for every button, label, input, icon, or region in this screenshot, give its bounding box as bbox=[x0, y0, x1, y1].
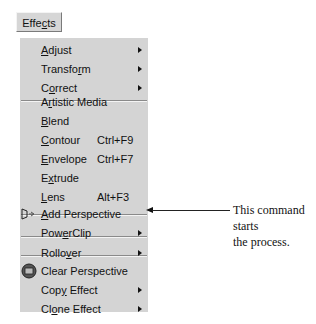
menu-item-label: PowerClip bbox=[41, 227, 91, 239]
menu-item-clone-effect[interactable]: Clone Effect bbox=[20, 300, 148, 319]
clear-perspective-icon bbox=[21, 263, 37, 279]
submenu-arrow-icon bbox=[138, 66, 142, 72]
menu-item-label: Contour bbox=[41, 134, 80, 146]
perspective-icon bbox=[21, 206, 37, 222]
menu-item-label: Clone Effect bbox=[41, 303, 101, 315]
submenu-arrow-icon bbox=[138, 287, 142, 293]
submenu-arrow-icon bbox=[138, 306, 142, 312]
menu-item-envelope[interactable]: EnvelopeCtrl+F7 bbox=[20, 150, 148, 169]
menu-item-shortcut: Ctrl+F9 bbox=[97, 134, 133, 146]
menu-item-rollover[interactable]: Rollover bbox=[20, 244, 148, 263]
effects-menu-button[interactable]: Effects bbox=[16, 12, 62, 32]
menu-item-label: Lens bbox=[41, 191, 65, 203]
menu-item-shortcut: Ctrl+F7 bbox=[97, 153, 133, 165]
menu-item-shortcut: Alt+F3 bbox=[97, 191, 129, 203]
menu-item-label: Transform bbox=[41, 63, 91, 75]
pointer-line bbox=[152, 210, 230, 211]
menu-item-label: Clear Perspective bbox=[41, 265, 128, 277]
submenu-arrow-icon bbox=[138, 230, 142, 236]
menu-item-label: Extrude bbox=[41, 172, 79, 184]
menu-item-blend[interactable]: Blend bbox=[20, 112, 148, 131]
menu-item-label: Adjust bbox=[41, 44, 72, 56]
menu-item-copy-effect[interactable]: Copy Effect bbox=[20, 281, 148, 300]
effects-menu-label: Effects bbox=[22, 17, 55, 29]
effects-dropdown-menu: AdjustTransformCorrectArtistic MediaBlen… bbox=[20, 38, 148, 312]
submenu-arrow-icon bbox=[138, 47, 142, 53]
annotation-callout: This command starts the process. bbox=[233, 202, 316, 250]
menu-item-contour[interactable]: ContourCtrl+F9 bbox=[20, 131, 148, 150]
menu-item-label: Blend bbox=[41, 115, 69, 127]
menu-item-adjust[interactable]: Adjust bbox=[20, 41, 148, 60]
menu-item-powerclip[interactable]: PowerClip bbox=[20, 224, 148, 243]
menu-item-artistic-media[interactable]: Artistic Media bbox=[20, 93, 148, 112]
menu-item-extrude[interactable]: Extrude bbox=[20, 169, 148, 188]
menu-item-transform[interactable]: Transform bbox=[20, 60, 148, 79]
menu-item-label: Add Perspective bbox=[41, 208, 121, 220]
menu-item-label: Envelope bbox=[41, 153, 87, 165]
submenu-arrow-icon bbox=[138, 85, 142, 91]
submenu-arrow-icon bbox=[138, 250, 142, 256]
menu-item-label: Copy Effect bbox=[41, 284, 98, 296]
menu-item-label: Artistic Media bbox=[41, 96, 107, 108]
menu-item-clear-perspective[interactable]: Clear Perspective bbox=[20, 262, 148, 281]
menu-item-add-perspective[interactable]: Add Perspective bbox=[20, 205, 148, 224]
annotation-line-2: the process. bbox=[233, 234, 316, 250]
menu-item-label: Rollover bbox=[41, 247, 81, 259]
annotation-line-1: This command starts bbox=[233, 202, 316, 234]
